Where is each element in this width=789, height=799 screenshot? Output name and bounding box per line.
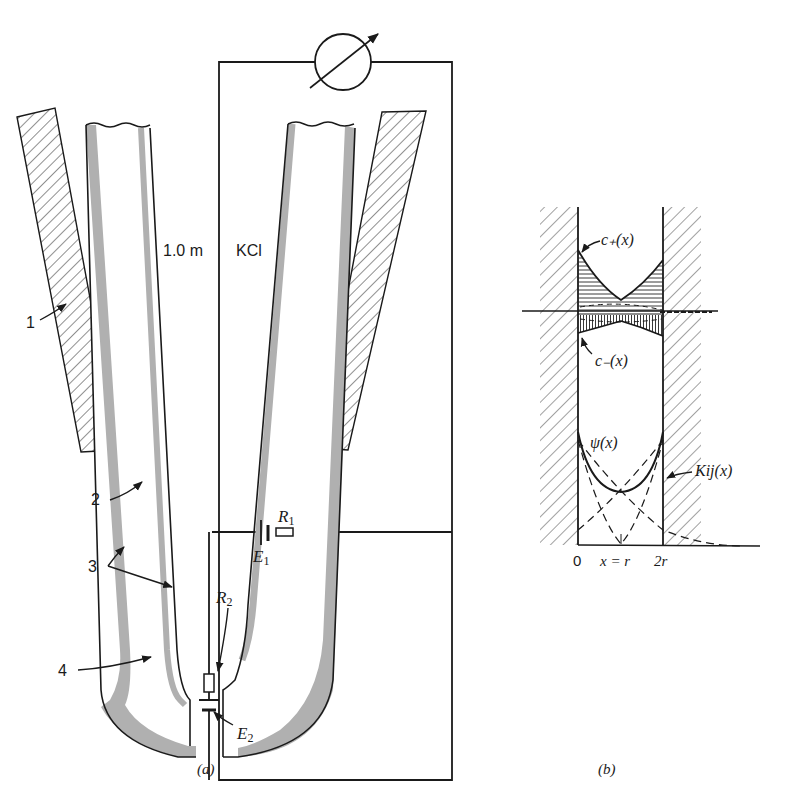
caption-b: (b) (598, 761, 616, 778)
pipette-left (86, 123, 196, 757)
label-psi: ψ(x) (590, 434, 618, 452)
axis-label-0: 0 (573, 552, 581, 569)
wall-right (663, 207, 701, 545)
label-c-minus: c₋(x) (595, 352, 628, 370)
label-c-plus: c₊(x) (601, 231, 634, 249)
figure: 1.0 m KCl 1 2 3 4 R1 E1 R2 E2 (a) (0, 0, 789, 799)
label-r2: R2 (215, 588, 232, 609)
resistor-r2-icon (204, 674, 214, 692)
c-minus-region (578, 315, 663, 336)
label-kij: Kij(x) (694, 462, 732, 480)
wall-left (540, 207, 578, 545)
c-plus-region (578, 250, 663, 312)
panel-b: c₊(x) c₋(x) ψ(x) Kij(x) 0 x = r 2r (b) (522, 207, 760, 778)
label-part-1: 1 (26, 314, 35, 331)
caption-a: (a) (197, 761, 215, 778)
variable-meter-icon (310, 34, 378, 90)
battery-e2-icon (199, 700, 219, 710)
label-part-2: 2 (91, 491, 100, 508)
label-solution: KCl (236, 242, 262, 259)
panel-a: 1.0 m KCl 1 2 3 4 R1 E1 R2 E2 (a) (17, 34, 452, 780)
label-concentration: 1.0 m (163, 242, 203, 259)
pipette-right (223, 122, 355, 757)
axis-label-2r: 2r (654, 553, 668, 569)
axis-label-r: x = r (599, 553, 630, 569)
label-part-4: 4 (58, 662, 67, 679)
label-part-3: 3 (88, 558, 97, 575)
resistor-r1-icon (276, 528, 293, 536)
